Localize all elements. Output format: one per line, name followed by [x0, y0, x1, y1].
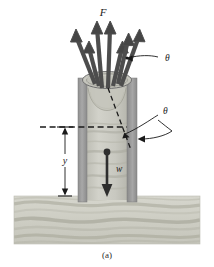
figure-container: F θ θ [0, 0, 214, 267]
theta-lower-tube-pointer [138, 131, 172, 142]
sediment-ground [14, 196, 200, 244]
weight-label-w: w [116, 164, 123, 174]
soil-plug-force-diagram: F θ θ [0, 0, 214, 267]
figure-caption: (a) [102, 250, 112, 260]
force-label-F: F [99, 6, 107, 18]
theta-upper-label: θ [165, 53, 170, 63]
depth-label-y: y [62, 155, 68, 166]
theta-lower-label: θ [163, 106, 168, 116]
depth-dimension-y: y [57, 127, 73, 196]
